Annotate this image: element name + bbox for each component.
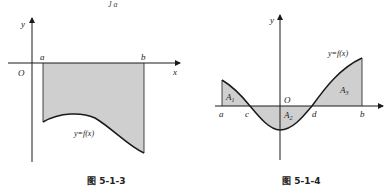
curve-label: y=f(x) (327, 49, 348, 58)
point-b-label: b (141, 52, 146, 62)
figure-5-1-3: y x O a b y=f(x) 图 5-1-3 (8, 18, 180, 186)
y-axis-label: y (269, 15, 274, 25)
point-a-label: a (219, 109, 224, 119)
figures-canvas: y x O a b y=f(x) 图 5-1-3 y O a c d b y=f… (0, 0, 385, 191)
point-b-label: b (360, 109, 365, 119)
shaded-region-A2 (250, 106, 312, 130)
y-axis-label: y (20, 19, 25, 29)
curve-label: y=f(x) (73, 129, 94, 138)
shaded-region (43, 63, 144, 153)
shaded-region-A3 (312, 58, 362, 106)
origin-label: O (284, 95, 291, 105)
figure-caption: 图 5-1-4 (282, 176, 320, 186)
figure-5-1-4: y O a c d b y=f(x) A1 A2 A3 图 5-1-4 (215, 15, 383, 186)
point-c-label: c (245, 109, 249, 119)
origin-label: O (18, 68, 25, 78)
figure-caption: 图 5-1-3 (87, 176, 125, 186)
point-a-label: a (40, 52, 45, 62)
point-d-label: d (312, 109, 317, 119)
x-axis-label: x (172, 67, 177, 77)
